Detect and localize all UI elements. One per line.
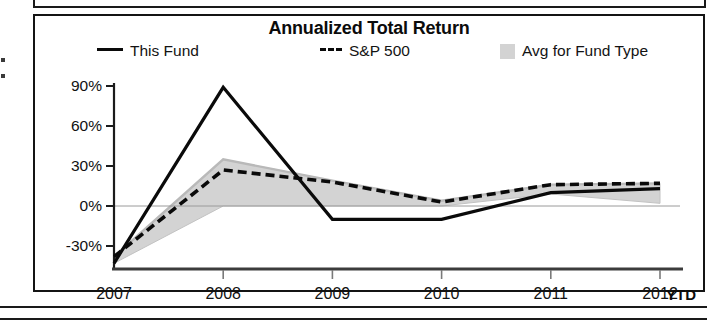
page-rule-lower [0,318,707,320]
x-axis-tick-label: 2011 [511,286,591,302]
margin-speck-icon [1,74,5,78]
page-frame-top-edge [33,0,706,8]
y-axis-tick-label: 90% [44,78,102,94]
y-axis-tick-label: 0% [44,198,102,214]
x-axis-tick-label: 2009 [292,286,372,302]
page-frame-bottom-edge [0,306,707,321]
y-axis-tick-label: -30% [44,238,102,254]
series-band-avg-for-fund-type [114,159,660,263]
page-rule-upper [0,306,707,308]
x-axis-tick-label: 2008 [183,286,263,302]
y-axis-tick-label: 60% [44,118,102,134]
x-axis-tick-label: 2007 [74,286,154,302]
series-line-this-fund [114,87,660,263]
chart-plot-svg [35,16,707,294]
chart-plot-area: -30%0%30%60%90%200720082009201020112012 [35,16,707,294]
x-axis-tick-label: 2010 [402,286,482,302]
y-axis-tick-label: 30% [44,158,102,174]
xaxis-ytd-note: YTD [666,287,696,302]
margin-speck-icon [1,58,5,62]
annualized-total-return-chart-card: Annualized Total Return This Fund S&P 50… [33,14,705,292]
